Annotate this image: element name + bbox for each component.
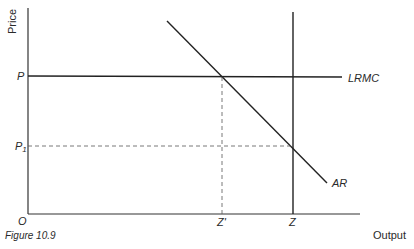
output-label-z: Z (289, 217, 296, 228)
ar-label: AR (332, 178, 347, 189)
price-label-p1: P1 (15, 141, 27, 154)
y-axis-label: Price (6, 9, 18, 34)
lrmc-label: LRMC (348, 73, 379, 84)
figure-caption: Figure 10.9 (5, 231, 56, 241)
lrmc-line (28, 76, 342, 77)
ar-line (167, 21, 327, 183)
diagram-canvas (0, 0, 414, 249)
price-label-p: P (17, 71, 24, 82)
x-axis-label: Output (373, 230, 406, 241)
output-label-z-prime: Z' (217, 217, 226, 228)
origin-label: O (18, 216, 27, 227)
